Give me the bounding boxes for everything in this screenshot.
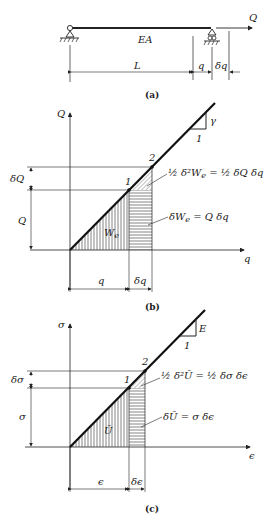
annotation-rect-c: δŪ = σ δϵ <box>163 411 214 422</box>
area-delta-we <box>129 190 152 250</box>
area-u-label: Ū <box>104 425 113 436</box>
increment-label: δq <box>215 60 227 71</box>
annotation-rect-b: δWe = Q δq <box>169 211 229 224</box>
dim-sigma-label: σ <box>19 411 27 422</box>
stiffness-label: EA <box>137 34 153 45</box>
slope-rise: γ <box>210 115 216 126</box>
area-delta-u <box>129 388 145 447</box>
slope-run: 1 <box>196 133 202 144</box>
caption-b: (b) <box>145 302 160 312</box>
caption-a: (a) <box>145 90 159 100</box>
dim-q-label: q <box>98 275 104 286</box>
annotation-triangle-b: ½ δ²We = ½ δQ δq <box>168 167 263 180</box>
displacement-label: q <box>198 60 204 71</box>
point-1: 1 <box>125 176 131 187</box>
roller-support-icon <box>204 29 220 45</box>
panel-a-bar: Q EA L q δq (a) <box>60 12 257 100</box>
x-axis-label-c: ϵ <box>249 450 255 461</box>
length-label: L <box>133 60 141 71</box>
caption-c: (c) <box>145 504 159 514</box>
slope-run-c: 1 <box>184 340 190 351</box>
dim-q-value-label: Q <box>18 215 26 226</box>
slope-rise-c: E <box>198 323 207 334</box>
point-2: 2 <box>148 152 155 163</box>
y-axis-label: Q <box>57 108 65 119</box>
point-1-c: 1 <box>124 374 130 385</box>
panel-c-stress-strain: σ ϵ E 1 1 2 δσ σ ϵ δϵ Ū ½ δ²Ū = ½ δσ δϵ … <box>11 310 255 514</box>
dim-delta-epsilon-label: δϵ <box>131 476 143 487</box>
load-label: Q <box>249 12 257 23</box>
x-axis-label: q <box>244 253 250 264</box>
dim-epsilon-label: ϵ <box>98 476 104 487</box>
dim-delta-q-x-label: δq <box>134 275 146 286</box>
point-2-c: 2 <box>141 356 148 367</box>
panel-b-load-displacement: Q q γ 1 1 2 δQ Q q δq We ½ δ²We = ½ δQ δ… <box>10 103 263 312</box>
annotation-triangle-c: ½ δ²Ū = ½ δσ δϵ <box>161 370 248 381</box>
dim-delta-q-label: δQ <box>10 173 24 184</box>
energy-diagram: Q EA L q δq (a) Q q γ 1 1 <box>0 0 267 523</box>
dim-delta-sigma-label: δσ <box>11 374 25 385</box>
y-axis-label-c: σ <box>58 319 66 330</box>
